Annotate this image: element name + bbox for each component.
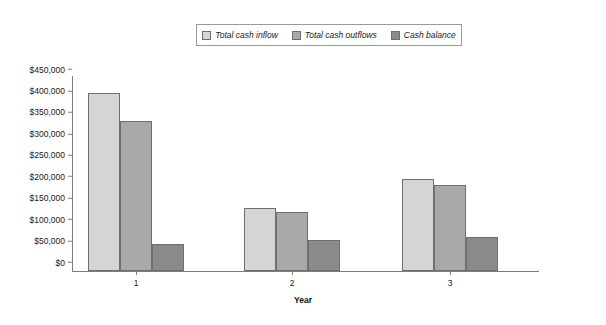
y-axis-tick-label: $150,000 xyxy=(30,194,65,203)
bar[interactable] xyxy=(402,179,434,271)
bar[interactable] xyxy=(244,208,276,271)
legend-label: Total cash outflows xyxy=(305,31,377,40)
bar-group xyxy=(244,78,344,271)
y-axis-tick: $0 xyxy=(56,258,72,267)
y-axis-tick: $350,000 xyxy=(30,108,72,117)
x-axis-tick-label: 1 xyxy=(134,278,139,288)
y-axis-tick: $100,000 xyxy=(30,215,72,224)
y-axis-tick-mark xyxy=(68,133,72,134)
legend-entry[interactable]: Total cash inflow xyxy=(202,31,278,40)
bar[interactable] xyxy=(88,93,120,271)
x-axis-line xyxy=(72,271,539,272)
bar[interactable] xyxy=(434,185,466,271)
y-axis-tick-label: $100,000 xyxy=(30,215,65,224)
y-axis-tick-mark xyxy=(68,219,72,220)
bar[interactable] xyxy=(466,237,498,271)
x-axis-tick-label: 2 xyxy=(290,278,295,288)
bar[interactable] xyxy=(120,121,152,271)
bar[interactable] xyxy=(152,244,184,271)
y-axis-tick-label: $200,000 xyxy=(30,172,65,181)
y-axis-tick-label: $400,000 xyxy=(30,87,65,96)
y-axis-tick: $150,000 xyxy=(30,194,72,203)
y-axis-tick-label: $0 xyxy=(56,258,65,267)
x-axis-tick-mark xyxy=(450,271,451,275)
y-axis-tick-label: $350,000 xyxy=(30,108,65,117)
legend-label: Total cash inflow xyxy=(215,31,278,40)
y-axis-tick-mark xyxy=(68,112,72,113)
y-axis-tick-label: $50,000 xyxy=(34,237,65,246)
legend-swatch-icon xyxy=(391,31,400,40)
y-axis-tick-label: $250,000 xyxy=(30,151,65,160)
legend-entry[interactable]: Cash balance xyxy=(391,31,456,40)
legend-label: Cash balance xyxy=(404,31,456,40)
x-axis-title: Year xyxy=(0,295,606,305)
y-axis-tick-mark xyxy=(68,90,72,91)
bar-group xyxy=(402,78,502,271)
bar-chart: Total cash inflowTotal cash outflowsCash… xyxy=(0,0,606,325)
y-axis-tick-mark xyxy=(68,176,72,177)
legend-swatch-icon xyxy=(202,31,211,40)
y-axis-tick-label: $300,000 xyxy=(30,130,65,139)
y-axis-tick: $300,000 xyxy=(30,130,72,139)
y-axis-tick-mark xyxy=(68,198,72,199)
x-axis-tick-mark xyxy=(292,271,293,275)
bar[interactable] xyxy=(308,240,340,271)
legend-swatch-icon xyxy=(292,31,301,40)
y-axis-tick: $50,000 xyxy=(34,237,72,246)
x-axis-tick-mark xyxy=(136,271,137,275)
y-axis-tick-label: $450,000 xyxy=(30,65,65,74)
y-axis-tick: $250,000 xyxy=(30,151,72,160)
bar-group xyxy=(88,78,188,271)
plot-area: $0$50,000$100,000$150,000$200,000$250,00… xyxy=(72,78,538,271)
legend-entry[interactable]: Total cash outflows xyxy=(292,31,377,40)
y-axis-tick-mark xyxy=(68,241,72,242)
y-axis-tick-mark xyxy=(68,155,72,156)
y-axis-tick: $450,000 xyxy=(30,65,72,74)
y-axis-tick-mark xyxy=(68,69,72,70)
y-axis-tick: $200,000 xyxy=(30,172,72,181)
bar[interactable] xyxy=(276,212,308,271)
chart-legend: Total cash inflowTotal cash outflowsCash… xyxy=(196,24,462,46)
x-axis-tick-label: 3 xyxy=(448,278,453,288)
y-axis-tick: $400,000 xyxy=(30,87,72,96)
y-axis-tick-mark xyxy=(68,262,72,263)
